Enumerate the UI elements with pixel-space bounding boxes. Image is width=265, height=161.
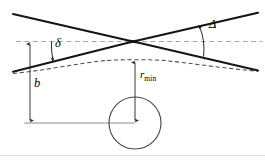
delta-angle-label: δ (55, 37, 61, 50)
impact-parameter-label: b (34, 77, 40, 90)
delta-angle-arc (51, 42, 53, 62)
scattering-geometry-figure: δ Δ b rmin (0, 0, 265, 161)
big-delta-angle-arc (199, 26, 204, 57)
outgoing-asymptote-lower-right (130, 41, 258, 71)
closest-approach-label: rmin (140, 69, 157, 80)
closest-approach-subscript: min (144, 74, 156, 83)
big-delta-angle-label: Δ (209, 18, 216, 31)
incoming-asymptote-lower-left (13, 41, 136, 72)
incoming-asymptote-upper-left (13, 14, 136, 42)
outgoing-asymptote-upper-right (130, 13, 258, 42)
